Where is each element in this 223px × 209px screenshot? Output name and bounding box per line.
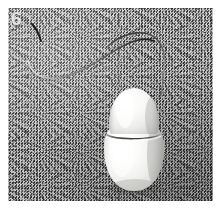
mouse-icon — [100, 85, 168, 195]
figure-photo — [8, 8, 213, 201]
mouse-graphic — [100, 85, 168, 195]
mouse-cable-port — [134, 85, 137, 88]
figure-plate: 6 — [0, 0, 223, 209]
figure-number: 6 — [11, 9, 22, 28]
mouse-top-button[interactable] — [109, 88, 159, 137]
